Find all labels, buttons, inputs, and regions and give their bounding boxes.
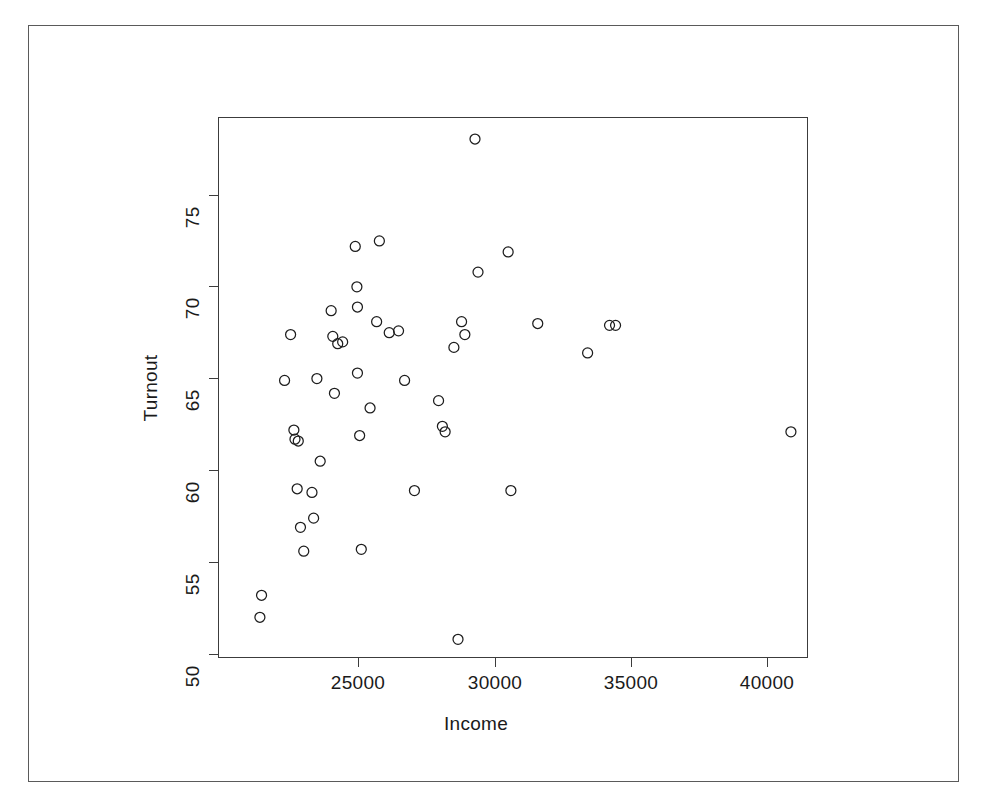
y-tick-55	[209, 562, 218, 563]
y-tick-label-60: 60	[183, 481, 202, 503]
x-tick-30000	[495, 658, 496, 667]
y-tick-65	[209, 378, 218, 379]
y-tick-50	[209, 654, 218, 655]
x-tick-25000	[358, 658, 359, 667]
plot-area-box	[218, 117, 808, 658]
y-tick-label-65: 65	[183, 389, 202, 411]
y-tick-60	[209, 470, 218, 471]
y-tick-label-50: 50	[183, 665, 202, 687]
x-axis-label: Income	[444, 713, 508, 735]
x-tick-35000	[631, 658, 632, 667]
scatter-plot-figure: 75 70 65 60 55 50 25000 30000 35000 4000…	[0, 0, 988, 807]
y-tick-label-75: 75	[183, 206, 202, 228]
x-tick-label-30000: 30000	[468, 672, 522, 694]
x-tick-40000	[767, 658, 768, 667]
x-tick-label-40000: 40000	[740, 672, 794, 694]
y-tick-label-70: 70	[183, 297, 202, 319]
x-tick-label-25000: 25000	[331, 672, 385, 694]
y-axis-label: Turnout	[140, 355, 162, 422]
x-tick-label-35000: 35000	[604, 672, 658, 694]
y-tick-label-55: 55	[183, 573, 202, 595]
y-tick-70	[209, 286, 218, 287]
x-axis-label-container: Income	[0, 713, 988, 735]
y-tick-75	[209, 195, 218, 196]
